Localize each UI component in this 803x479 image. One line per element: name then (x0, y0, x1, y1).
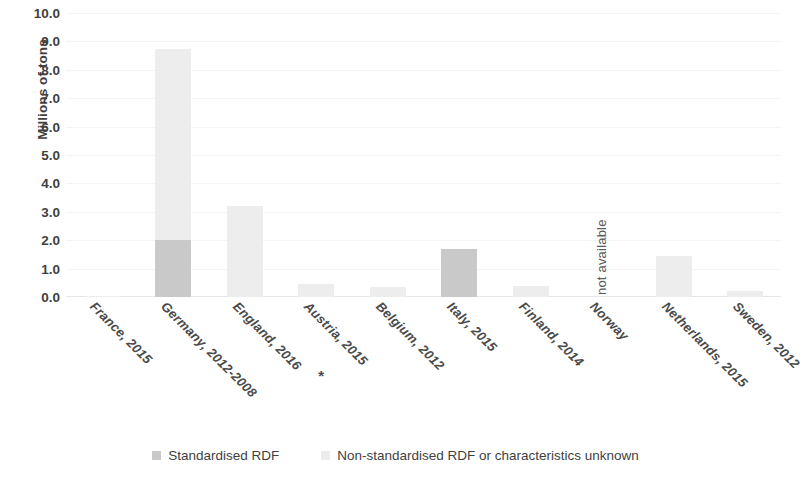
legend-label: Non-standardised RDF or characteristics … (337, 448, 639, 463)
x-axis-label: Norway (587, 299, 632, 344)
x-axis-label: Italy, 2015 (444, 299, 500, 355)
y-axis-tick: 0.0 (0, 290, 60, 305)
stacked-bar (656, 256, 692, 297)
bar-segment-non-standardised (155, 49, 191, 241)
chart-legend: Standardised RDFNon-standardised RDF or … (0, 448, 791, 463)
bar-segment-non-standardised (727, 291, 763, 297)
x-axis-label-cell: Norway (567, 299, 639, 404)
x-axis-label-cell: Finland, 2014 (495, 299, 567, 404)
y-axis-tick: 8.0 (0, 62, 60, 77)
x-axis-category-labels: France, 2015Germany, 2012-2008England, 2… (66, 299, 781, 404)
x-axis-label-cell: France, 2015 (66, 299, 138, 404)
bar-columns: not available (66, 13, 781, 297)
stacked-bar (155, 49, 191, 297)
bar-segment-non-standardised (298, 284, 334, 297)
footnote-asterisk: * (318, 367, 324, 384)
y-axis-tick: 3.0 (0, 204, 60, 219)
bar-column (138, 13, 210, 297)
bar-column (66, 13, 138, 297)
legend-item[interactable]: Non-standardised RDF or characteristics … (321, 448, 639, 463)
y-axis-tick: 2.0 (0, 233, 60, 248)
x-axis-label-cell: Italy, 2015 (424, 299, 496, 404)
bar-column (710, 13, 782, 297)
plot-area: not available (66, 13, 781, 297)
x-axis-label-cell: Germany, 2012-2008 (138, 299, 210, 404)
legend-label: Standardised RDF (168, 448, 279, 463)
stacked-bar (727, 291, 763, 297)
stacked-bar (227, 206, 263, 297)
bar-column: not available (567, 13, 639, 297)
bar-segment-standardised (441, 249, 477, 297)
y-axis-tick: 9.0 (0, 34, 60, 49)
stacked-bar (513, 286, 549, 297)
bar-column (495, 13, 567, 297)
bar-column (638, 13, 710, 297)
stacked-bar (84, 296, 120, 297)
x-axis-label-cell: Sweden, 2012 (710, 299, 782, 404)
bar-segment-non-standardised (656, 256, 692, 297)
stacked-bar (441, 249, 477, 297)
bar-column (209, 13, 281, 297)
x-axis-label-cell: Belgium, 2012 (352, 299, 424, 404)
x-axis-label-cell: England, 2016 (209, 299, 281, 404)
y-axis-tick: 1.0 (0, 261, 60, 276)
stacked-bar (298, 284, 334, 297)
y-axis-tick: 10.0 (0, 6, 60, 21)
bar-segment-non-standardised (227, 206, 263, 297)
bar-segment-non-standardised (513, 286, 549, 297)
x-axis-label: Sweden, 2012 (730, 299, 803, 372)
y-axis-tick: 4.0 (0, 176, 60, 191)
legend-item[interactable]: Standardised RDF (152, 448, 279, 463)
x-axis-label-cell: Austria, 2015* (281, 299, 353, 404)
bar-segment-standardised (155, 240, 191, 297)
bar-segment-non-standardised (370, 287, 406, 297)
bar-column (281, 13, 353, 297)
y-axis-tick-labels: 10.09.08.07.06.05.04.03.02.01.00.0 (0, 0, 66, 310)
bar-segment-non-standardised (84, 296, 120, 297)
y-axis-tick: 6.0 (0, 119, 60, 134)
y-axis-tick: 7.0 (0, 91, 60, 106)
legend-swatch-standardised-icon (152, 451, 161, 460)
x-axis-label-cell: Netherlands, 2015 (638, 299, 710, 404)
not-available-annotation: not available (594, 219, 609, 295)
bar-column (424, 13, 496, 297)
bar-column (352, 13, 424, 297)
stacked-bar (370, 287, 406, 297)
legend-swatch-non-standardised-icon (321, 451, 330, 460)
y-axis-tick: 5.0 (0, 148, 60, 163)
